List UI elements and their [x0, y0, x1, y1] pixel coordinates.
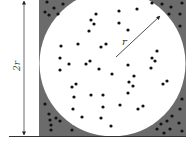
point-inside	[161, 82, 164, 85]
point-outside	[43, 102, 46, 105]
point-inside	[110, 72, 113, 75]
point-inside	[59, 44, 62, 47]
point-inside	[101, 105, 104, 108]
point-inside	[109, 124, 112, 127]
point-inside	[165, 79, 168, 82]
point-inside	[99, 45, 102, 48]
point-inside	[141, 104, 144, 107]
point-inside	[97, 67, 100, 70]
point-inside	[136, 107, 139, 110]
point-outside	[178, 12, 181, 15]
point-inside	[94, 12, 97, 15]
point-outside	[167, 12, 170, 15]
point-outside	[54, 116, 57, 119]
point-inside	[89, 18, 92, 21]
point-inside	[76, 42, 79, 45]
point-outside	[45, 0, 48, 3]
point-inside	[89, 93, 92, 96]
point-outside	[58, 119, 61, 122]
point-inside	[135, 7, 138, 10]
point-outside	[162, 131, 165, 134]
point-outside	[49, 123, 52, 126]
point-inside	[92, 22, 95, 25]
point-inside	[126, 91, 129, 94]
point-inside	[117, 21, 120, 24]
point-outside	[159, 122, 162, 125]
point-outside	[180, 129, 183, 132]
point-inside	[88, 59, 91, 62]
point-inside	[67, 62, 70, 65]
point-inside	[149, 66, 152, 69]
monte-carlo-diagram: r 2r	[0, 0, 188, 141]
point-outside	[178, 24, 181, 27]
point-inside	[99, 116, 102, 119]
point-outside	[178, 107, 181, 110]
point-outside	[49, 128, 52, 131]
point-inside	[70, 85, 73, 88]
point-inside	[132, 74, 135, 77]
point-inside	[131, 84, 134, 87]
side-length-label: 2r	[12, 60, 22, 72]
point-inside	[118, 103, 121, 106]
point-outside	[169, 5, 172, 8]
point-inside	[80, 115, 83, 118]
point-inside	[74, 82, 77, 85]
point-outside	[180, 97, 183, 100]
point-inside	[155, 49, 158, 52]
point-inside	[126, 63, 129, 66]
point-outside	[155, 127, 158, 130]
point-inside	[87, 29, 90, 32]
point-outside	[150, 1, 153, 4]
point-outside	[177, 121, 180, 124]
point-outside	[70, 128, 73, 131]
point-inside	[101, 93, 104, 96]
point-inside	[58, 68, 61, 71]
point-inside	[72, 95, 75, 98]
point-outside	[52, 6, 55, 9]
point-outside	[160, 2, 163, 5]
point-outside	[56, 12, 59, 15]
point-outside	[47, 112, 50, 115]
point-inside	[150, 56, 153, 59]
point-outside	[170, 114, 173, 117]
point-outside	[168, 127, 171, 130]
point-outside	[180, 1, 183, 4]
point-outside	[47, 13, 50, 16]
point-inside	[71, 107, 74, 110]
point-outside	[61, 2, 64, 5]
point-inside	[117, 9, 120, 12]
point-inside	[58, 56, 61, 59]
point-outside	[165, 119, 168, 122]
point-inside	[84, 62, 87, 65]
point-outside	[43, 10, 46, 13]
point-inside	[104, 42, 107, 45]
point-inside	[127, 80, 130, 83]
point-outside	[48, 118, 51, 121]
point-inside	[153, 59, 156, 62]
point-inside	[126, 28, 129, 31]
